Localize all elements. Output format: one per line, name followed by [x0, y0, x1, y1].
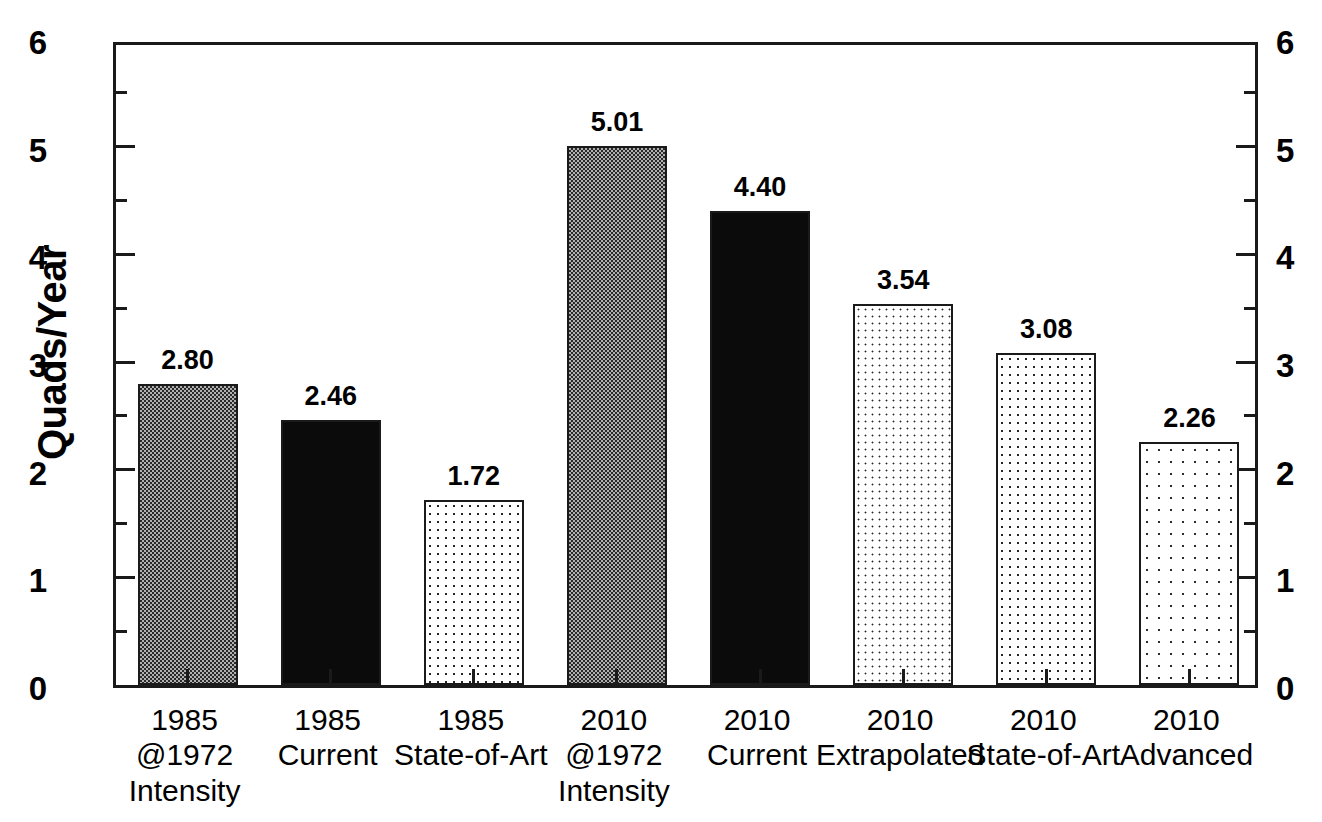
bar-2[interactable]	[424, 500, 524, 685]
right-axis-tick-3	[1236, 361, 1255, 364]
bar-value-label-6: 3.08	[966, 316, 1126, 343]
y-axis-tick-label-4: 4	[7, 241, 47, 274]
y-axis-tick-2.5	[116, 414, 127, 417]
bar-value-label-3: 5.01	[537, 109, 697, 136]
bar-value-label-7: 2.26	[1109, 405, 1269, 432]
right-axis-tick-label-4: 4	[1276, 241, 1316, 274]
x-axis-tick-0	[186, 669, 189, 685]
right-axis-tick-label-0: 0	[1276, 672, 1316, 705]
x-axis-tick-5	[902, 669, 905, 685]
category-label-line-2: Intensity	[504, 773, 724, 808]
x-axis-tick-3	[615, 669, 618, 685]
y-axis-tick-label-0: 0	[7, 672, 47, 705]
category-label-line-0: 2010	[1076, 702, 1296, 737]
y-axis-tick-1	[116, 576, 135, 579]
bar-value-label-5: 3.54	[823, 267, 983, 294]
y-axis-tick-5.5	[116, 91, 127, 94]
right-axis-tick-label-5: 5	[1276, 134, 1316, 167]
bar-4[interactable]	[710, 211, 810, 685]
right-axis-tick-0.5	[1244, 630, 1255, 633]
right-axis-tick-label-1: 1	[1276, 564, 1316, 597]
category-label-line-2: Intensity	[75, 773, 295, 808]
right-axis-tick-5.5	[1244, 91, 1255, 94]
right-axis-tick-label-6: 6	[1276, 26, 1316, 59]
x-axis-tick-2	[472, 669, 475, 685]
x-axis-tick-6	[1045, 669, 1048, 685]
bar-5[interactable]	[853, 304, 953, 685]
y-axis-tick-4.5	[116, 199, 127, 202]
right-axis-tick-1.5	[1244, 522, 1255, 525]
y-axis-tick-label-6: 6	[7, 26, 47, 59]
bar-6[interactable]	[996, 353, 1096, 685]
x-axis-tick-7	[1188, 669, 1191, 685]
bar-chart: Quads/Year 6 5 4 3 2 1 0 6 5 4 3 2 1 0 2…	[0, 0, 1322, 822]
bar-value-label-1: 2.46	[251, 383, 411, 410]
bar-value-label-0: 2.80	[108, 347, 268, 374]
bar-value-label-2: 1.72	[394, 463, 554, 490]
x-axis-tick-4	[759, 669, 762, 685]
bar-0[interactable]	[138, 384, 238, 685]
y-axis-tick-label-2: 2	[7, 457, 47, 490]
plot-area: 2.802.461.725.014.403.543.082.26	[113, 42, 1258, 688]
y-axis-tick-2	[116, 468, 135, 471]
right-axis-tick-4	[1236, 253, 1255, 256]
x-axis-category-label-7: 2010Advanced	[1076, 702, 1296, 773]
y-axis-tick-label-1: 1	[7, 564, 47, 597]
category-label-line-1: Advanced	[1076, 737, 1296, 772]
right-axis-tick-label-2: 2	[1276, 457, 1316, 490]
right-axis-tick-5	[1236, 145, 1255, 148]
bar-1[interactable]	[281, 420, 381, 685]
bar-value-label-4: 4.40	[680, 174, 840, 201]
y-axis-tick-5	[116, 145, 135, 148]
x-axis-tick-1	[329, 669, 332, 685]
y-axis-tick-1.5	[116, 522, 127, 525]
y-axis-tick-0.5	[116, 630, 127, 633]
y-axis-tick-4	[116, 253, 135, 256]
y-axis-tick-label-3: 3	[7, 349, 47, 382]
right-axis-tick-label-3: 3	[1276, 349, 1316, 382]
right-axis-tick-3.5	[1244, 307, 1255, 310]
right-axis-tick-4.5	[1244, 199, 1255, 202]
y-axis-tick-label-5: 5	[7, 134, 47, 167]
y-axis-tick-3.5	[116, 307, 127, 310]
bar-3[interactable]	[567, 146, 667, 685]
bar-7[interactable]	[1139, 442, 1239, 685]
